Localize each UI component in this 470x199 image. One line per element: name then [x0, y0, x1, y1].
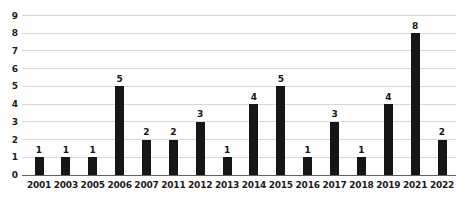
y-tick-label: 3	[4, 116, 18, 128]
x-tick-label: 2011	[158, 180, 188, 191]
y-tick-label: 9	[4, 10, 18, 22]
bar	[35, 157, 44, 175]
x-tick-label: 2005	[78, 180, 108, 191]
bar-chart: 0123456789120011200312005520062200722011…	[0, 0, 470, 199]
bar-value-label: 2	[430, 126, 454, 138]
y-tick-label: 8	[4, 27, 18, 39]
x-tick-label: 2015	[266, 180, 296, 191]
bar	[142, 140, 151, 175]
y-tick-label: 4	[4, 98, 18, 110]
x-tick-label: 2016	[293, 180, 323, 191]
bar-value-label: 4	[242, 91, 266, 103]
bar	[88, 157, 97, 175]
y-tick-label: 6	[4, 63, 18, 75]
bar-value-label: 1	[54, 144, 78, 156]
bar	[115, 86, 124, 175]
x-tick-label: 2017	[320, 180, 350, 191]
bar	[411, 33, 420, 175]
bar-value-label: 8	[403, 20, 427, 32]
y-tick-label: 7	[4, 45, 18, 57]
bar	[196, 122, 205, 175]
y-tick-label: 2	[4, 134, 18, 146]
x-tick-label: 2021	[400, 180, 430, 191]
x-tick-label: 2003	[51, 180, 81, 191]
bar	[303, 157, 312, 175]
gridline	[22, 86, 456, 87]
x-tick-label: 2018	[346, 180, 376, 191]
x-tick-label: 2006	[105, 180, 135, 191]
y-tick-label: 1	[4, 151, 18, 163]
bar	[384, 104, 393, 175]
bar	[61, 157, 70, 175]
bar	[169, 140, 178, 175]
bar	[330, 122, 339, 175]
bar-value-label: 5	[269, 73, 293, 85]
bar-value-label: 1	[27, 144, 51, 156]
x-tick-label: 2007	[131, 180, 161, 191]
bar-value-label: 2	[134, 126, 158, 138]
bar-value-label: 2	[161, 126, 185, 138]
bar-value-label: 1	[349, 144, 373, 156]
x-tick-label: 2019	[373, 180, 403, 191]
bar-value-label: 1	[81, 144, 105, 156]
bar	[357, 157, 366, 175]
bar	[438, 140, 447, 175]
bar	[276, 86, 285, 175]
bar-value-label: 5	[108, 73, 132, 85]
bar-value-label: 4	[376, 91, 400, 103]
bar-value-label: 3	[323, 108, 347, 120]
bar-value-label: 1	[296, 144, 320, 156]
x-tick-label: 2014	[239, 180, 269, 191]
x-tick-label: 2001	[24, 180, 54, 191]
x-tick-label: 2022	[427, 180, 457, 191]
bar-value-label: 1	[215, 144, 239, 156]
bar	[223, 157, 232, 175]
y-tick-label: 0	[4, 169, 18, 181]
gridline	[22, 50, 456, 51]
gridline	[22, 68, 456, 69]
gridline	[22, 33, 456, 34]
x-tick-label: 2013	[212, 180, 242, 191]
gridline	[22, 15, 456, 16]
bar-value-label: 3	[188, 108, 212, 120]
bar	[249, 104, 258, 175]
y-tick-label: 5	[4, 80, 18, 92]
x-tick-label: 2012	[185, 180, 215, 191]
